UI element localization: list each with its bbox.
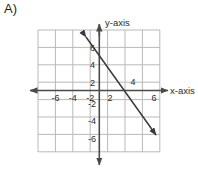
- x-axis-label: x-axis: [170, 85, 195, 96]
- y-tick-label: 2: [90, 78, 95, 88]
- y-tick-label: -2: [88, 99, 96, 109]
- x-tick-label: 4: [130, 77, 135, 87]
- x-tick-label: 6: [151, 93, 156, 103]
- y-tick-label: -6: [88, 134, 96, 144]
- coordinate-plane: -6 -4 -2 2 4 6 6 4 2 -2 -4 -6 x-axis y-a…: [0, 0, 198, 172]
- plotted-line: [86, 37, 156, 135]
- x-tick-label: 2: [107, 93, 112, 103]
- y-axis-label: y-axis: [105, 17, 130, 28]
- x-tick-label: -6: [51, 93, 59, 103]
- y-tick-label: 4: [90, 60, 95, 70]
- y-tick-label: 6: [90, 43, 95, 53]
- x-tick-label: -4: [69, 93, 77, 103]
- problem-label: A): [4, 2, 17, 16]
- y-tick-label: -4: [88, 116, 96, 126]
- graph-figure: A): [0, 0, 198, 172]
